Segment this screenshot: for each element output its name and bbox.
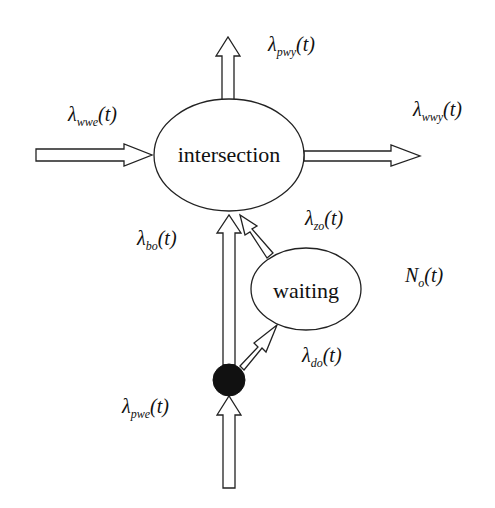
label-N-o: No(t) [405,264,443,291]
junction-dot [213,364,245,396]
arrow-pwe [217,396,241,488]
waiting-label: waiting [273,278,339,304]
flow-diagram: intersection waiting λpwy(t) λwwe(t) λww… [0,0,495,508]
arrow-pwy [216,37,240,107]
label-lambda-pwe: λpwe(t) [122,395,169,422]
arrow-bo [217,215,241,365]
label-lambda-bo: λbo(t) [137,227,177,254]
label-lambda-do: λdo(t) [302,344,342,371]
arrow-wwy [304,145,420,166]
diagram-graphics [0,0,495,508]
arrow-zo [240,215,273,258]
label-lambda-zo: λzo(t) [305,207,343,234]
arrow-wwe [36,144,152,166]
intersection-label: intersection [178,142,281,168]
label-lambda-wwy: λwwy(t) [413,98,462,125]
arrow-do [240,325,277,370]
label-lambda-pwy: λpwy(t) [268,33,315,60]
label-lambda-wwe: λwwe(t) [68,103,117,130]
